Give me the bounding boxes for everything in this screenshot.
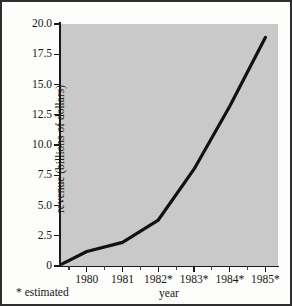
x-tick <box>265 266 266 272</box>
x-tick-label: 1985* <box>239 273 291 285</box>
chart-figure: revenue (billions of dollars) year * est… <box>0 0 292 306</box>
y-tick-label: 10.0 <box>2 138 52 150</box>
x-tick <box>193 266 194 272</box>
x-tick-minor <box>247 266 248 270</box>
y-tick-label: 12.5 <box>2 108 52 120</box>
y-tick <box>54 54 60 55</box>
y-tick <box>54 265 60 266</box>
y-tick <box>54 23 60 24</box>
y-tick <box>54 114 60 115</box>
x-tick <box>86 266 87 272</box>
y-tick <box>54 175 60 176</box>
y-tick-label: 5.0 <box>2 199 52 211</box>
y-tick-label: 7.5 <box>2 168 52 180</box>
y-tick <box>54 205 60 206</box>
footnote-estimated: * estimated <box>16 286 69 298</box>
x-axis-title: year <box>60 287 278 299</box>
x-tick <box>229 266 230 272</box>
y-tick-label: 0 <box>2 259 52 271</box>
plot-area <box>60 24 278 266</box>
x-tick-minor <box>176 266 177 270</box>
x-tick <box>158 266 159 272</box>
x-tick-minor <box>104 266 105 270</box>
y-tick-label: 17.5 <box>2 47 52 59</box>
x-tick-minor <box>211 266 212 270</box>
x-axis-line <box>59 266 279 268</box>
y-axis-title: revenue (billions of dollars) <box>54 29 66 269</box>
y-tick <box>54 235 60 236</box>
x-tick-minor <box>68 266 69 270</box>
y-tick-label: 20.0 <box>2 17 52 29</box>
y-tick <box>54 84 60 85</box>
y-tick-label: 15.0 <box>2 78 52 90</box>
x-tick-minor <box>140 266 141 270</box>
y-tick-label: 2.5 <box>2 229 52 241</box>
y-tick <box>54 144 60 145</box>
x-tick <box>122 266 123 272</box>
